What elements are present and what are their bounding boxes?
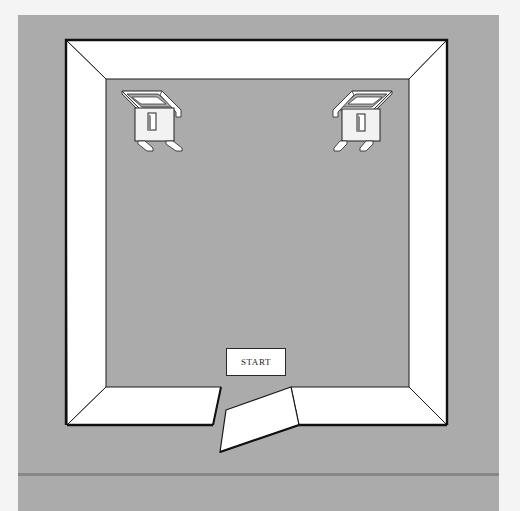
wall-top	[66, 40, 447, 79]
broken-wall-segment[interactable]	[220, 387, 299, 452]
room-scene	[0, 0, 520, 511]
game-stage: START	[0, 0, 520, 511]
chair-left[interactable]	[122, 91, 182, 151]
start-button[interactable]: START	[226, 348, 286, 376]
wall-right	[409, 40, 447, 425]
chair-right[interactable]	[333, 91, 392, 151]
divider-line	[18, 473, 499, 476]
wall-left	[66, 40, 106, 425]
